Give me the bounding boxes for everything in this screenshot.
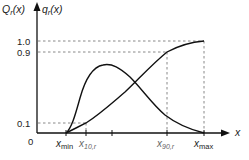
y-label-q: qr(x) xyxy=(42,3,63,17)
x-axis-arrow-icon xyxy=(221,130,230,137)
y-tick-0-1: 0.1 xyxy=(17,118,30,129)
x-tick-xmax: xmax xyxy=(193,138,213,151)
x-tick-x90: x90,r xyxy=(156,138,175,150)
x-tick-xmin: xmin xyxy=(55,138,73,151)
y-label-Q: Qr(x) xyxy=(2,3,25,17)
x-axis-label: x xyxy=(234,126,241,138)
distribution-diagram: Qr(x) qr(x) 1.0 0.9 0.1 0 x xmin x10,r x… xyxy=(0,0,249,160)
y-axis-arrow-icon xyxy=(34,2,41,11)
y-tick-1-0: 1.0 xyxy=(17,36,30,47)
x-tick-x10: x10,r xyxy=(78,138,97,150)
y-tick-0-9: 0.9 xyxy=(17,47,30,58)
origin-label: 0 xyxy=(28,136,33,147)
cumulative-curve-Q xyxy=(66,41,204,133)
guide-lines xyxy=(38,41,204,133)
